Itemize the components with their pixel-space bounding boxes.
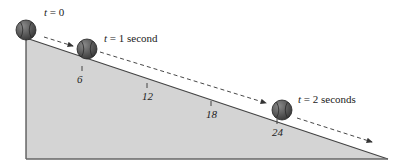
tick-label: 6 <box>77 73 83 85</box>
ball-icon <box>77 39 97 59</box>
time-label: t = 1 second <box>104 32 158 44</box>
incline-diagram: 6121824 t = 0t = 1 secondt = 2 seconds <box>0 0 396 163</box>
tick-label: 18 <box>206 108 218 120</box>
time-label: t = 2 seconds <box>298 93 356 105</box>
ball-position: t = 0 <box>16 6 65 40</box>
ball-position: t = 2 seconds <box>272 93 356 120</box>
dashed-arrow <box>44 37 73 46</box>
ball-icon <box>272 100 292 120</box>
tick-label: 12 <box>142 90 154 102</box>
ball-position: t = 1 second <box>77 32 158 59</box>
ball-icon <box>16 20 36 40</box>
tick-label: 24 <box>272 126 284 138</box>
time-label: t = 0 <box>44 6 65 18</box>
